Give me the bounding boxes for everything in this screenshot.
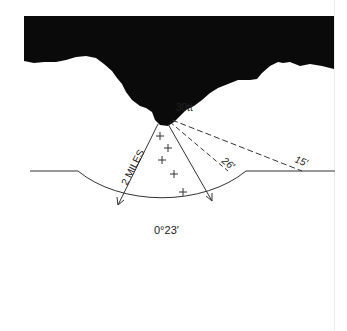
arrowhead-right — [206, 193, 212, 201]
dashed-line-26 — [170, 122, 228, 171]
radius-label: 2 MILES — [119, 147, 146, 186]
dashed-line-15 — [172, 120, 302, 171]
vessel-label: 30tt — [176, 102, 193, 113]
plus-markers — [156, 132, 187, 196]
canyon-diagram: 30tt 2 MILES 26′ 15′ 0°23′ — [0, 0, 347, 331]
angle-15-label: 15′ — [293, 154, 310, 169]
radius-line-right — [168, 124, 212, 201]
arc-angle-label: 0°23′ — [154, 224, 179, 236]
angle-26-label: 26′ — [219, 154, 238, 172]
